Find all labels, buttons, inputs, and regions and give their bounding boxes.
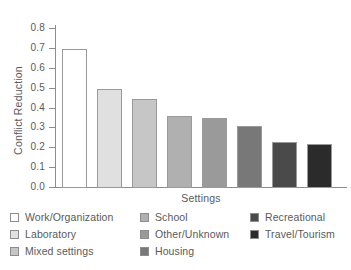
legend-item-label: Recreational	[265, 212, 325, 223]
legend-item[interactable]: School	[140, 210, 229, 224]
legend-column: Work/OrganizationLaboratoryMixed setting…	[10, 210, 113, 261]
bar	[237, 126, 262, 188]
y-axis-tick-label: 0.8	[5, 23, 45, 33]
legend-item[interactable]: Housing	[140, 244, 229, 258]
y-axis-tick-label: 0.0	[5, 182, 45, 192]
y-axis-tick-label: 0.7	[5, 43, 45, 53]
y-axis-tick-label: 0.2	[5, 142, 45, 152]
legend-item-label: Work/Organization	[25, 212, 113, 223]
legend-swatch-icon	[10, 247, 19, 256]
legend-swatch-icon	[140, 213, 149, 222]
bar	[62, 49, 87, 188]
bar	[307, 144, 332, 188]
legend-swatch-icon	[250, 230, 259, 239]
legend-item-label: Travel/Tourism	[265, 229, 335, 240]
legend-item-label: Laboratory	[25, 229, 76, 240]
bar	[272, 142, 297, 188]
legend-item[interactable]: Travel/Tourism	[250, 227, 335, 241]
y-axis-tick-label: 0.4	[5, 103, 45, 113]
y-axis-tick-label: 0.1	[5, 162, 45, 172]
bar	[132, 99, 157, 188]
legend-item-label: Other/Unknown	[155, 229, 229, 240]
y-axis-tick-label: 0.6	[5, 63, 45, 73]
legend-item[interactable]: Work/Organization	[10, 210, 113, 224]
plot-area	[55, 22, 347, 188]
legend-item-label: School	[155, 212, 188, 223]
legend-swatch-icon	[10, 213, 19, 222]
legend-item[interactable]: Mixed settings	[10, 244, 113, 258]
legend-swatch-icon	[250, 213, 259, 222]
x-axis-title: Settings	[55, 192, 347, 204]
y-axis-tick-label: 0.3	[5, 122, 45, 132]
chart-legend: Work/OrganizationLaboratoryMixed setting…	[10, 210, 345, 262]
legend-column: RecreationalTravel/Tourism	[250, 210, 335, 244]
legend-swatch-icon	[140, 230, 149, 239]
legend-item[interactable]: Other/Unknown	[140, 227, 229, 241]
legend-item-label: Mixed settings	[25, 246, 94, 257]
legend-item-label: Housing	[155, 246, 194, 257]
legend-item[interactable]: Laboratory	[10, 227, 113, 241]
y-axis-tick-label: 0.5	[5, 83, 45, 93]
bar	[97, 89, 122, 188]
bar-chart-figure: Conflict Reduction 0.00.10.20.30.40.50.6…	[0, 0, 351, 270]
legend-item[interactable]: Recreational	[250, 210, 335, 224]
legend-swatch-icon	[10, 230, 19, 239]
bar	[167, 116, 192, 188]
legend-column: SchoolOther/UnknownHousing	[140, 210, 229, 261]
legend-swatch-icon	[140, 247, 149, 256]
bar	[202, 118, 227, 188]
